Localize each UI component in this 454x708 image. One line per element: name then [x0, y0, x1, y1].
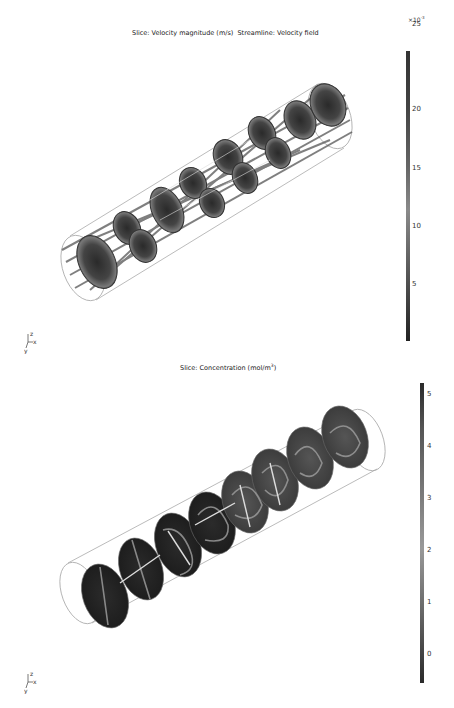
svg-text:y: y: [24, 687, 28, 694]
colorbar-tick: 5: [427, 390, 431, 398]
svg-text:x: x: [33, 678, 37, 685]
colorbar-tick: 10: [412, 222, 421, 230]
colorbar-tick: 1: [427, 598, 431, 606]
colorbar-tick: 0: [427, 650, 431, 658]
velocity-colorbar: [406, 51, 410, 341]
colorbar-tick: 3: [427, 494, 431, 502]
concentration-plot: Slice: Concentration (mol/m3): [0, 355, 454, 708]
svg-text:x: x: [33, 338, 37, 345]
velocity-3d-view[interactable]: [0, 0, 400, 355]
colorbar-tick: 25: [412, 20, 421, 28]
axis-triad-icon: z x y: [24, 670, 44, 694]
svg-text:y: y: [24, 347, 28, 354]
colorbar-tick: 2: [427, 546, 431, 554]
svg-text:z: z: [30, 670, 33, 677]
colorbar-tick: 5: [412, 280, 416, 288]
multiplier-exponent: -3: [421, 15, 425, 20]
axis-triad-icon: z x y: [24, 330, 44, 354]
svg-text:z: z: [30, 330, 33, 337]
concentration-colorbar: [420, 383, 424, 683]
colorbar-tick: 4: [427, 442, 431, 450]
colorbar-tick: 20: [412, 105, 421, 113]
concentration-3d-view[interactable]: [0, 355, 400, 708]
velocity-plot: Slice: Velocity magnitude (m/s) Streamli…: [0, 0, 454, 355]
colorbar-tick: 15: [412, 164, 421, 172]
